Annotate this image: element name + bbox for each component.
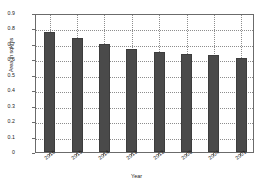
x-tick-mark [158, 153, 159, 156]
bar [126, 49, 137, 152]
bar-series [36, 15, 253, 152]
x-tick-mark [76, 153, 77, 156]
x-tick-mark [240, 153, 241, 156]
y-axis-title: Area in sqkms [8, 18, 14, 92]
bar [154, 52, 165, 152]
x-tick-mark [131, 153, 132, 156]
y-tick-mark [32, 91, 35, 92]
y-tick-mark [32, 153, 35, 154]
x-tick-mark [103, 153, 104, 156]
x-axis-title: Year [0, 173, 273, 179]
x-tick-mark [213, 153, 214, 156]
bar [208, 55, 219, 152]
y-tick-mark [32, 76, 35, 77]
bar [44, 32, 55, 152]
bar [236, 58, 247, 152]
chart-figure: 00.10.20.30.40.50.60.70.80.9 20162015201… [0, 0, 273, 188]
y-tick-mark [32, 107, 35, 108]
plot-area [35, 14, 254, 153]
y-tick-label: 0.2 [0, 119, 15, 124]
y-tick-label: 0.9 [0, 11, 15, 16]
y-tick-mark [32, 122, 35, 123]
bar [181, 54, 192, 152]
y-tick-label: 0.3 [0, 104, 15, 109]
y-tick-label: 0 [0, 150, 15, 155]
y-tick-mark [32, 45, 35, 46]
y-tick-mark [32, 29, 35, 30]
x-tick-mark [49, 153, 50, 156]
x-tick-mark [186, 153, 187, 156]
y-tick-label: 0.1 [0, 135, 15, 140]
y-tick-mark [32, 60, 35, 61]
bar [99, 44, 110, 152]
y-tick-mark [32, 138, 35, 139]
y-tick-mark [32, 14, 35, 15]
bar [72, 38, 83, 152]
